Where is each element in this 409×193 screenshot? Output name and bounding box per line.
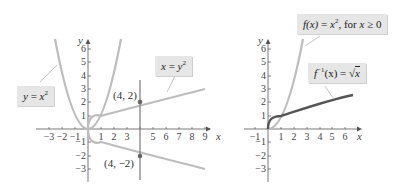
svg-text:7: 7 — [177, 131, 182, 142]
svg-text:5: 5 — [330, 131, 335, 142]
svg-text:−3: −3 — [255, 163, 266, 174]
point-4-2 — [138, 100, 143, 105]
svg-text:1: 1 — [261, 110, 266, 121]
callout-f-x-squared: f(x) = x2, for x ≥ 0 — [297, 14, 387, 34]
curve-x-equals-y-squared — [88, 89, 205, 129]
svg-text:2: 2 — [112, 131, 117, 142]
left-y-axis-label: y — [77, 34, 83, 46]
left-y-tick-labels: 6 5 4 3 2 1 −1 −2 −3 — [75, 43, 86, 174]
leader-parabola — [40, 65, 57, 82]
svg-text:−1: −1 — [75, 136, 86, 147]
svg-text:8: 8 — [190, 131, 195, 142]
left-panel: −3 −2 −1 1 2 3 5 6 7 8 9 x 6 5 4 3 2 1 −… — [36, 34, 221, 182]
point-label-4-2: (4, 2) — [113, 89, 137, 102]
left-x-axis-label: x — [215, 130, 221, 142]
svg-text:3: 3 — [81, 83, 86, 94]
svg-text:5: 5 — [151, 131, 156, 142]
svg-text:3: 3 — [305, 131, 310, 142]
svg-text:4: 4 — [81, 70, 86, 81]
svg-text:9: 9 — [203, 131, 208, 142]
svg-text:−3: −3 — [75, 163, 86, 174]
point-4-neg2 — [138, 154, 143, 159]
svg-text:2: 2 — [261, 96, 266, 107]
point-label-4-neg2: (4, −2) — [104, 157, 134, 170]
leader-f — [305, 36, 320, 46]
svg-text:1: 1 — [279, 131, 284, 142]
callout-y-equals-x-squared: y = x2 — [17, 86, 54, 106]
right-panel: −1 1 2 3 4 5 6 x 6 5 4 3 2 1 −1 −2 −3 y — [244, 34, 362, 182]
right-x-axis-label: x — [356, 130, 362, 142]
svg-text:4: 4 — [318, 131, 323, 142]
svg-text:1: 1 — [99, 131, 104, 142]
svg-text:−3: −3 — [44, 131, 55, 142]
left-y-ticks — [88, 49, 91, 169]
svg-text:6: 6 — [343, 131, 348, 142]
svg-text:1: 1 — [81, 110, 86, 121]
right-y-ticks — [268, 49, 271, 169]
left-y-arrow-icon — [86, 39, 91, 44]
svg-text:−2: −2 — [75, 150, 86, 161]
leader-finv — [325, 86, 333, 98]
svg-text:2: 2 — [81, 96, 86, 107]
svg-text:3: 3 — [125, 131, 130, 142]
svg-text:−1: −1 — [255, 136, 266, 147]
svg-text:2: 2 — [292, 131, 297, 142]
svg-text:5: 5 — [261, 56, 266, 67]
svg-text:4: 4 — [261, 70, 266, 81]
callout-f-inverse-sqrt: f−1(x) = √x — [308, 63, 366, 83]
right-y-arrow-icon — [266, 39, 271, 44]
curve-f-inverse-sqrt — [268, 95, 353, 129]
right-y-tick-labels: 6 5 4 3 2 1 −1 −2 −3 — [255, 43, 266, 174]
left-x-tick-labels: −3 −2 −1 1 2 3 5 6 7 8 9 — [44, 131, 208, 142]
svg-text:−2: −2 — [57, 131, 68, 142]
svg-text:6: 6 — [164, 131, 169, 142]
right-y-axis-label: y — [257, 34, 263, 46]
callout-x-equals-y-squared: x = y2 — [155, 56, 192, 76]
svg-text:5: 5 — [81, 56, 86, 67]
svg-text:3: 3 — [261, 83, 266, 94]
svg-text:−2: −2 — [255, 150, 266, 161]
leader-sideways — [167, 76, 175, 92]
